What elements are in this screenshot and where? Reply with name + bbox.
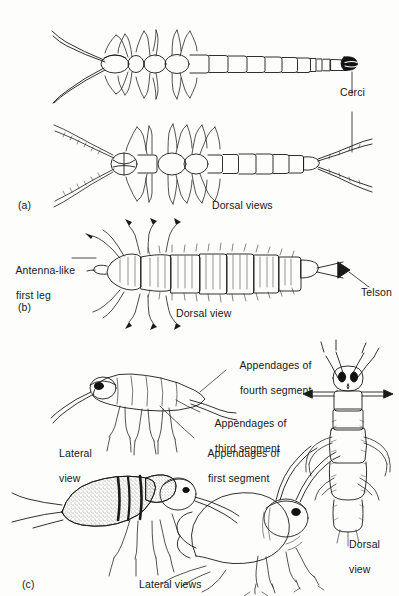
telson-label: Telson (361, 286, 392, 299)
appendages-first-segment-line-1: Appendages of (208, 447, 280, 459)
lateral-view-left-label: Lateral view (47, 434, 92, 497)
panel-c-id: (c) (22, 578, 35, 591)
appendages-first-segment-label: Appendages of first segment (196, 434, 279, 497)
antenna-like-first-leg-line-1: Antenna-like (16, 264, 76, 276)
figure-plate: (a) Dorsal views Cerci (b) Dorsal view A… (0, 0, 399, 596)
lateral-view-left-line-2: view (59, 472, 80, 484)
specimen-a-lower (54, 124, 372, 207)
appendages-fourth-segment-line-1: Appendages of (240, 359, 312, 371)
panel-a-caption: Dorsal views (212, 199, 273, 212)
specimen-c-dorsal-right (303, 340, 393, 546)
panel-a-id: (a) (18, 199, 31, 212)
panel-c-caption: Lateral views (139, 578, 202, 591)
cerci-label: Cerci (340, 86, 365, 99)
appendages-third-segment-line-1: Appendages of (215, 417, 287, 429)
dorsal-view-right-line-2: view (349, 563, 370, 575)
appendages-fourth-segment-line-2: fourth segment (240, 384, 311, 396)
appendages-first-segment-line-2: first segment (208, 472, 269, 484)
specimen-a-upper (52, 30, 358, 103)
panel-b-caption: Dorsal view (176, 307, 231, 320)
antenna-like-first-leg-label: Antenna-like first leg (4, 251, 75, 314)
telson-leader-line (349, 272, 369, 287)
dorsal-view-right-label: Dorsal view (337, 525, 380, 588)
lateral-view-left-line-1: Lateral (59, 447, 92, 459)
dorsal-view-right-line-1: Dorsal (349, 538, 380, 550)
antenna-like-first-leg-line-2: first leg (16, 289, 51, 301)
appendages-fourth-segment-label: Appendages of fourth segment (228, 346, 312, 409)
